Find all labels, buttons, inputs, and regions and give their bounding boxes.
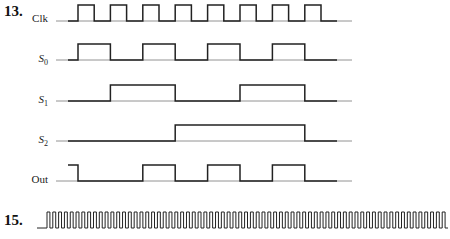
- waveform-s1: [68, 85, 337, 101]
- waveform-s2: [68, 125, 337, 141]
- waveform-out: [68, 165, 337, 181]
- waveform-clk: [68, 5, 337, 21]
- waveform-s0: [68, 44, 337, 60]
- problem-15-clock-wave: [37, 212, 448, 228]
- timing-diagram: [0, 0, 450, 239]
